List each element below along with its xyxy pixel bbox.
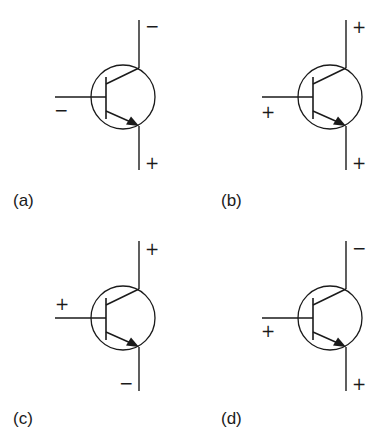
transistor-c (55, 241, 155, 391)
collector-sign-d: − (352, 240, 366, 257)
emitter-sign-a: + (145, 155, 159, 172)
base-sign-b: + (261, 104, 275, 121)
transistor-a (55, 20, 155, 170)
transistor-figure (0, 0, 389, 439)
npn-transistor-symbol (262, 20, 362, 170)
panel-label-c: (c) (13, 410, 33, 427)
emitter-sign-b: + (352, 155, 366, 172)
panel-label-a: (a) (13, 192, 34, 209)
emitter-sign-d: + (352, 376, 366, 393)
base-sign-c: + (55, 296, 69, 313)
npn-transistor-symbol (262, 241, 362, 391)
transistor-b (262, 20, 362, 170)
base-sign-a: − (54, 102, 68, 119)
collector-sign-c: + (145, 241, 159, 258)
npn-transistor-symbol (55, 241, 155, 391)
panel-label-d: (d) (221, 410, 242, 427)
collector-sign-a: − (145, 18, 159, 35)
npn-transistor-symbol (55, 20, 155, 170)
transistor-d (262, 241, 362, 391)
base-sign-d: + (261, 323, 275, 340)
emitter-sign-c: − (119, 375, 133, 392)
panel-label-b: (b) (221, 192, 242, 209)
collector-sign-b: + (352, 19, 366, 36)
